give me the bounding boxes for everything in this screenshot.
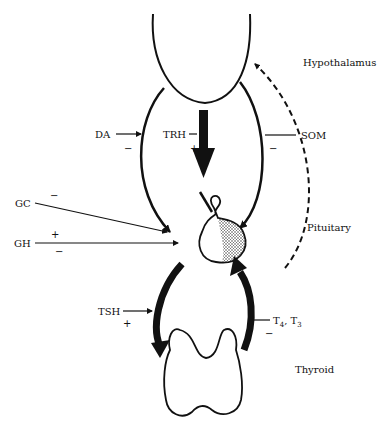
tsh-input: TSH + [98, 306, 152, 329]
som-sign: − [269, 143, 277, 154]
thyroid-label: Thyroid [295, 364, 335, 375]
left-portal-arc [141, 88, 170, 232]
gh-sign-plus: + [51, 229, 59, 240]
trh-input: TRH + [163, 129, 198, 154]
gh-input: GH + − [14, 229, 178, 257]
thyroid-gland [164, 329, 242, 415]
t4-t3-input: T4, T3 − [252, 315, 302, 339]
da-sign: − [124, 143, 132, 154]
hypothalamus-shape [153, 14, 251, 103]
da-input: DA − [95, 129, 141, 154]
tsh-sign: + [123, 318, 131, 329]
gh-label: GH [14, 238, 31, 249]
som-label: SOM [301, 130, 326, 141]
gc-input: GC − [15, 190, 167, 232]
som-input: SOM − [265, 130, 326, 154]
gc-sign: − [50, 190, 58, 201]
tsh-label: TSH [98, 306, 121, 317]
gh-sign-minus: − [55, 246, 63, 257]
hpt-axis-diagram: DA − TRH + SOM − GC − GH + − TSH + T4, T… [0, 0, 384, 421]
da-label: DA [95, 129, 111, 140]
trh-label: TRH [163, 129, 186, 140]
pituitary-label: Pituitary [307, 222, 351, 233]
pituitary-gland [199, 192, 245, 263]
gc-label: GC [15, 198, 31, 209]
right-portal-arc [240, 82, 263, 228]
hypothalamus-label: Hypothalamus [303, 57, 376, 68]
trh-sign: + [190, 143, 198, 154]
t4-t3-feedback-arc [240, 272, 251, 350]
t4-t3-sign: − [265, 328, 273, 339]
t4-t3-label: T4, T3 [273, 315, 302, 329]
